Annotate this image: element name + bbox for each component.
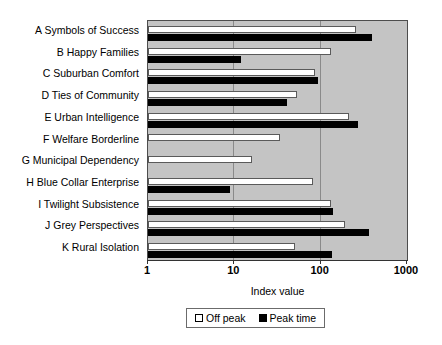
bar-off-peak (148, 221, 345, 228)
bar-peak-time (148, 34, 372, 41)
bar-off-peak (148, 48, 331, 55)
category-label: G Municipal Dependency (0, 155, 139, 166)
bar-peak-time (148, 121, 358, 128)
category-label: I Twilight Subsistence (0, 199, 139, 210)
x-tick-label: 1 (124, 264, 170, 277)
bar-off-peak (148, 134, 280, 141)
bar-off-peak (148, 26, 356, 33)
legend-label-peak-time: Peak time (270, 312, 317, 324)
legend-item-peak-time: Peak time (259, 312, 317, 324)
bar-peak-time (148, 208, 333, 215)
peak-time-swatch-icon (259, 314, 267, 322)
bar-off-peak (148, 91, 297, 98)
category-label: H Blue Collar Enterprise (0, 177, 139, 188)
bar-peak-time (148, 77, 318, 84)
x-tick-label: 100 (297, 264, 343, 277)
legend-label-off-peak: Off peak (206, 312, 246, 324)
category-label: J Grey Perspectives (0, 220, 139, 231)
bar-off-peak (148, 178, 313, 185)
legend-item-off-peak: Off peak (195, 312, 246, 324)
bar-off-peak (148, 156, 252, 163)
bar-peak-time (148, 56, 241, 63)
x-tick-label: 1000 (383, 264, 429, 277)
bar-off-peak (148, 69, 315, 76)
bar-off-peak (148, 113, 349, 120)
category-label: D Ties of Community (0, 90, 139, 101)
off-peak-swatch-icon (195, 314, 203, 322)
bar-peak-time (148, 99, 287, 106)
category-label: K Rural Isolation (0, 242, 139, 253)
bar-off-peak (148, 243, 295, 250)
x-tick-label: 10 (210, 264, 256, 277)
category-axis-labels: A Symbols of SuccessB Happy FamiliesC Su… (0, 20, 143, 261)
x-axis-title: Index value (147, 285, 408, 297)
bar-peak-time (148, 251, 332, 258)
bar-off-peak (148, 200, 331, 207)
plot-area (147, 20, 408, 261)
category-label: C Suburban Comfort (0, 68, 139, 79)
bar-peak-time (148, 229, 369, 236)
category-label: B Happy Families (0, 47, 139, 58)
bar-chart: A Symbols of SuccessB Happy FamiliesC Su… (0, 0, 442, 345)
category-label: F Welfare Borderline (0, 134, 139, 145)
chart-legend: Off peak Peak time (186, 308, 325, 328)
category-label: A Symbols of Success (0, 25, 139, 36)
bar-peak-time (148, 186, 230, 193)
x-axis-line (147, 260, 408, 261)
category-label: E Urban Intelligence (0, 112, 139, 123)
